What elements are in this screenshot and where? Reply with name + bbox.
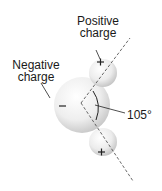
positive-leader bbox=[96, 50, 100, 59]
positive-label-line2: charge bbox=[76, 27, 120, 39]
hydrogen-atom-top bbox=[89, 59, 117, 87]
negative-charge-label: Negative charge bbox=[10, 59, 62, 83]
positive-charge-label: Positive charge bbox=[76, 15, 120, 39]
angle-label: 105° bbox=[127, 109, 152, 121]
negative-leader bbox=[41, 83, 50, 98]
negative-label-line2: charge bbox=[10, 71, 62, 83]
